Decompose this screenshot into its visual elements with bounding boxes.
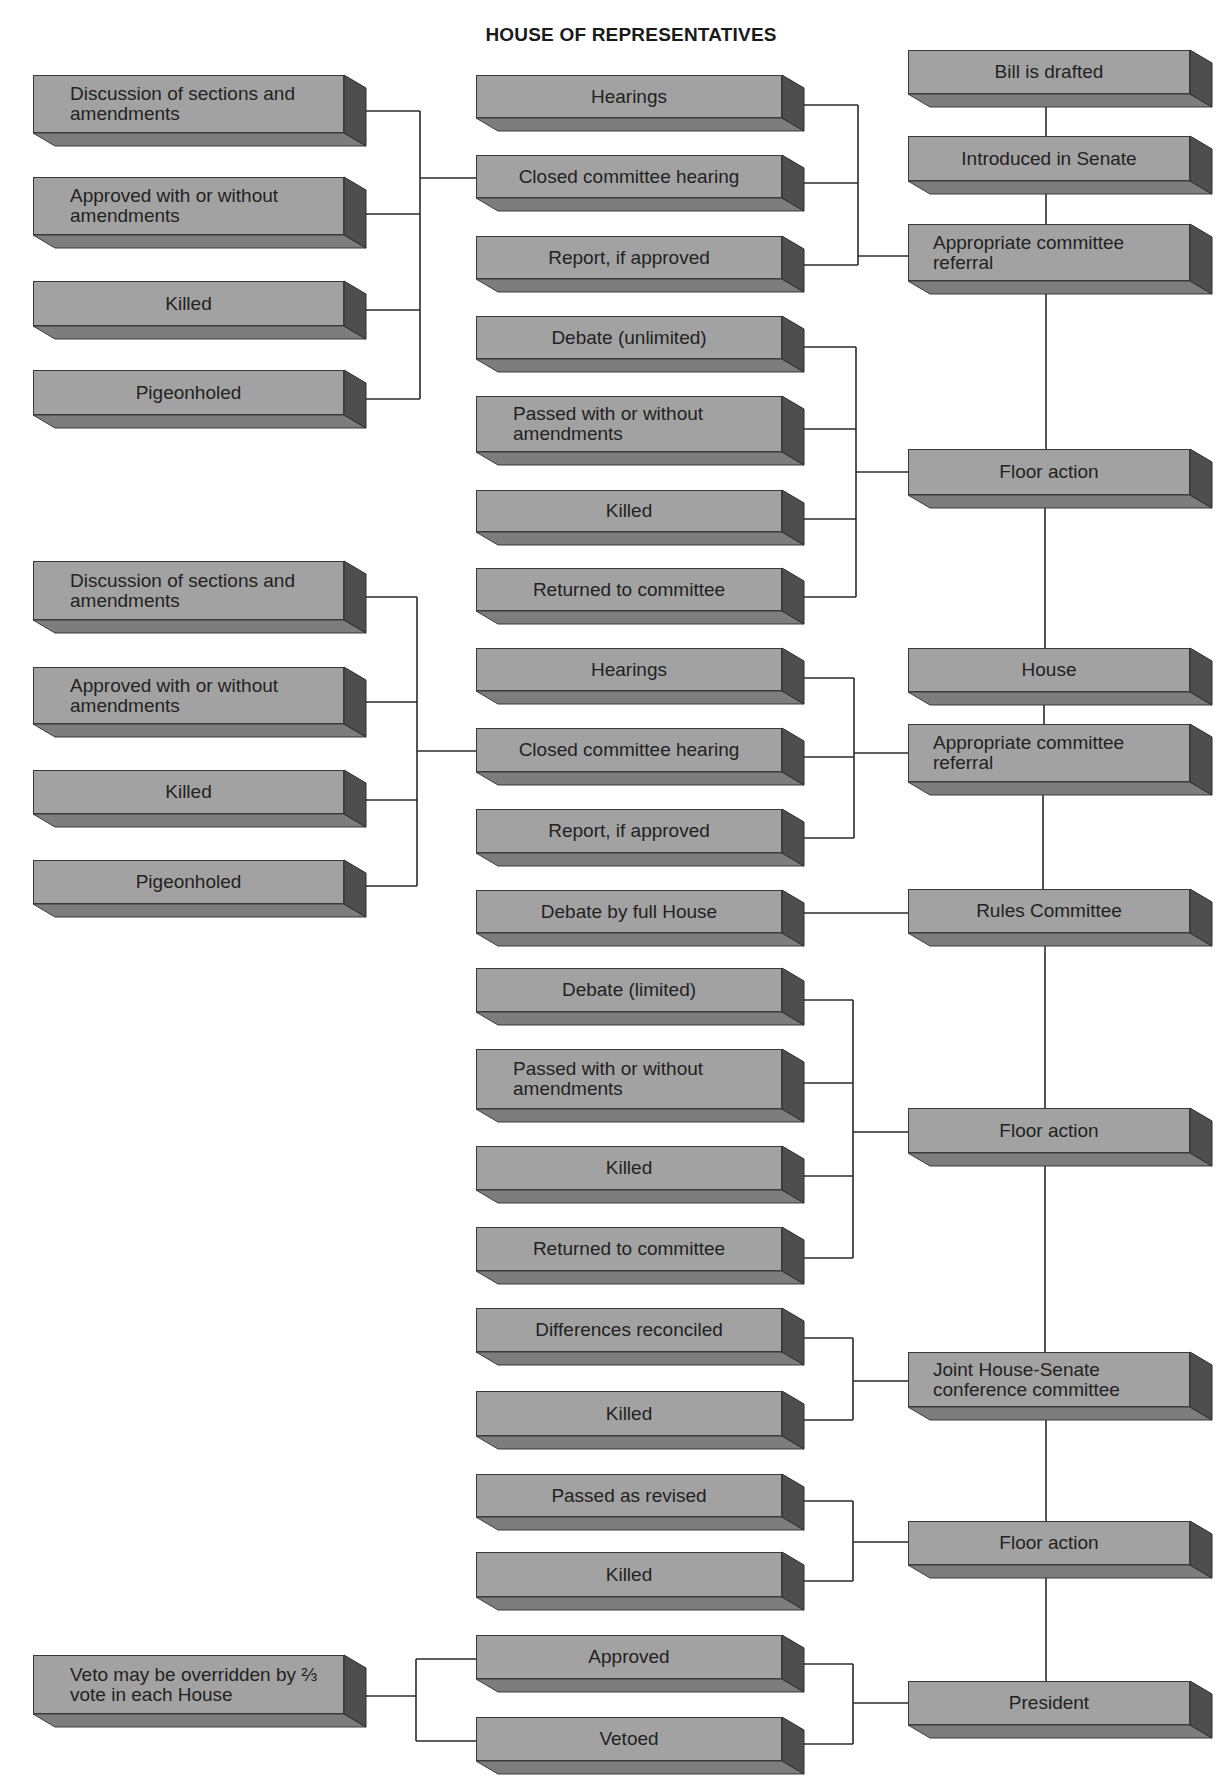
- box-bottom-face: [476, 1679, 804, 1692]
- box-bottom-face: [476, 1190, 804, 1203]
- house-closed-hearing-box: Closed committee hearing: [476, 728, 804, 785]
- house-floor-killed-box: Killed: [476, 1146, 804, 1203]
- box-bottom-face: [33, 326, 366, 339]
- box-bottom-face: [908, 1407, 1212, 1420]
- box-bottom-face: [908, 495, 1212, 508]
- box-bottom-face: [908, 281, 1212, 294]
- box-bottom-face: [476, 1012, 804, 1025]
- box-label: Killed: [476, 490, 782, 532]
- final-floor-killed-box: Killed: [476, 1552, 804, 1610]
- senate-returned-box: Returned to committee: [476, 568, 804, 624]
- box-label: Differences reconciled: [476, 1308, 782, 1352]
- box-label: Returned to committee: [476, 1227, 782, 1271]
- box-side-face: [344, 75, 366, 146]
- box-side-face: [344, 667, 366, 737]
- box-label: Hearings: [476, 75, 782, 118]
- senate-floor-killed-box: Killed: [476, 490, 804, 545]
- box-side-face: [344, 177, 366, 248]
- box-label: Floor action: [908, 1108, 1190, 1153]
- senate-discussion-box: Discussion of sections and amendments: [33, 75, 366, 146]
- box-label: Bill is drafted: [908, 50, 1190, 94]
- box-label: Discussion of sections and amendments: [33, 75, 344, 133]
- senate-hearings-box: Hearings: [476, 75, 804, 131]
- house-passed-box: Passed with or without amendments: [476, 1049, 804, 1122]
- box-bottom-face: [476, 1517, 804, 1530]
- box-bottom-face: [908, 1153, 1212, 1166]
- box-bottom-face: [908, 1725, 1212, 1738]
- house-pigeonholed-box: Pigeonholed: [33, 860, 366, 917]
- box-bottom-face: [476, 452, 804, 465]
- box-label: Passed with or without amendments: [476, 1049, 782, 1109]
- box-label: Floor action: [908, 1521, 1190, 1565]
- box-label: Joint House-Senate conference committee: [908, 1352, 1190, 1407]
- box-bottom-face: [33, 1714, 366, 1727]
- house-committee-referral-box: Appropriate committee referral: [908, 724, 1212, 795]
- box-label: Report, if approved: [476, 809, 782, 853]
- box-bottom-face: [476, 1597, 804, 1610]
- box-bottom-face: [476, 691, 804, 704]
- box-bottom-face: [33, 904, 366, 917]
- introduced-in-senate-box: Introduced in Senate: [908, 136, 1212, 194]
- box-label: Report, if approved: [476, 236, 782, 279]
- box-bottom-face: [33, 814, 366, 827]
- box-bottom-face: [476, 933, 804, 946]
- rules-committee-box: Rules Committee: [908, 889, 1212, 946]
- box-label: Killed: [33, 770, 344, 814]
- box-side-face: [1190, 224, 1212, 294]
- senate-debate-box: Debate (unlimited): [476, 316, 804, 372]
- box-bottom-face: [33, 415, 366, 428]
- box-label: Appropriate committee referral: [908, 224, 1190, 281]
- house-debate-box: Debate (limited): [476, 968, 804, 1025]
- box-bottom-face: [476, 1109, 804, 1122]
- bill-drafted-box: Bill is drafted: [908, 50, 1212, 107]
- final-floor-action-box: Floor action: [908, 1521, 1212, 1578]
- senate-passed-box: Passed with or without amendments: [476, 396, 804, 465]
- box-bottom-face: [476, 1761, 804, 1774]
- senate-committee-referral-box: Appropriate committee referral: [908, 224, 1212, 294]
- senate-pigeonholed-box: Pigeonholed: [33, 370, 366, 428]
- box-bottom-face: [476, 1271, 804, 1284]
- box-label: Floor action: [908, 449, 1190, 495]
- box-label: Vetoed: [476, 1717, 782, 1761]
- box-label: Rules Committee: [908, 889, 1190, 933]
- box-label: Closed committee hearing: [476, 728, 782, 772]
- house-approved-box: Approved with or without amendments: [33, 667, 366, 737]
- box-label: Debate by full House: [476, 890, 782, 933]
- conference-killed-box: Killed: [476, 1391, 804, 1449]
- box-label: Approved with or without amendments: [33, 177, 344, 235]
- box-label: President: [908, 1681, 1190, 1725]
- box-bottom-face: [476, 118, 804, 131]
- box-bottom-face: [476, 1436, 804, 1449]
- conference-committee-box: Joint House-Senate conference committee: [908, 1352, 1212, 1420]
- box-bottom-face: [908, 94, 1212, 107]
- box-label: House: [908, 648, 1190, 692]
- box-side-face: [1190, 724, 1212, 795]
- house-committee-killed-box: Killed: [33, 770, 366, 827]
- box-bottom-face: [908, 1565, 1212, 1578]
- box-label: Closed committee hearing: [476, 155, 782, 198]
- box-label: Killed: [476, 1552, 782, 1597]
- box-bottom-face: [33, 724, 366, 737]
- box-bottom-face: [476, 198, 804, 211]
- house-report-box: Report, if approved: [476, 809, 804, 866]
- box-bottom-face: [476, 772, 804, 785]
- house-discussion-box: Discussion of sections and amendments: [33, 561, 366, 633]
- vetoed-box: Vetoed: [476, 1717, 804, 1774]
- president-box: President: [908, 1681, 1212, 1738]
- box-label: Pigeonholed: [33, 860, 344, 904]
- box-bottom-face: [476, 359, 804, 372]
- house-returned-box: Returned to committee: [476, 1227, 804, 1284]
- box-label: Discussion of sections and amendments: [33, 561, 344, 620]
- box-bottom-face: [908, 181, 1212, 194]
- box-side-face: [782, 1049, 804, 1122]
- box-label: Killed: [476, 1146, 782, 1190]
- senate-committee-killed-box: Killed: [33, 281, 366, 339]
- house-hearings-box: Hearings: [476, 648, 804, 704]
- box-bottom-face: [908, 782, 1212, 795]
- box-label: Hearings: [476, 648, 782, 691]
- senate-approved-box: Approved with or without amendments: [33, 177, 366, 248]
- box-label: Introduced in Senate: [908, 136, 1190, 181]
- senate-closed-hearing-box: Closed committee hearing: [476, 155, 804, 211]
- box-label: Returned to committee: [476, 568, 782, 611]
- box-label: Veto may be overridden by ⅔ vote in each…: [33, 1655, 344, 1714]
